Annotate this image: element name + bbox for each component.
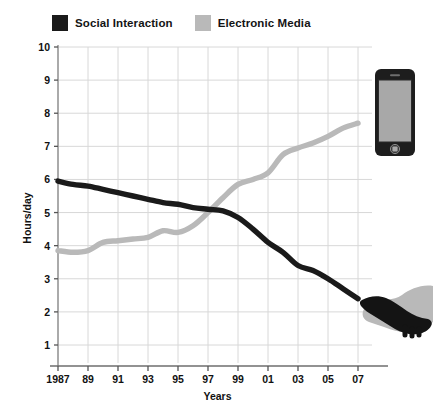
x-tick-label: 01 — [262, 373, 274, 385]
y-tick-label: 7 — [26, 140, 50, 152]
x-tick-label: 03 — [292, 373, 304, 385]
y-tick-label: 2 — [26, 306, 50, 318]
plot-area — [0, 0, 435, 413]
x-tick-label: 91 — [112, 373, 124, 385]
x-axis-title: Years — [0, 390, 435, 402]
x-tick-label: 93 — [142, 373, 154, 385]
x-tick-label: 07 — [352, 373, 364, 385]
y-tick-label: 3 — [26, 273, 50, 285]
x-tick-label: 95 — [172, 373, 184, 385]
chart-container: Social Interaction Electronic Media 1098… — [0, 0, 435, 413]
x-tick-label: 1987 — [46, 373, 69, 385]
x-tick-label: 05 — [322, 373, 334, 385]
x-tick-label: 99 — [232, 373, 244, 385]
x-tick-label: 89 — [82, 373, 94, 385]
x-tick-label: 97 — [202, 373, 214, 385]
smartphone-icon — [374, 68, 416, 157]
y-tick-label: 8 — [26, 107, 50, 119]
y-axis-title: Hours/day — [21, 182, 33, 254]
y-tick-label: 9 — [26, 74, 50, 86]
y-tick-label: 1 — [26, 339, 50, 351]
y-tick-label: 10 — [26, 41, 50, 53]
handshake-icon — [360, 283, 434, 339]
